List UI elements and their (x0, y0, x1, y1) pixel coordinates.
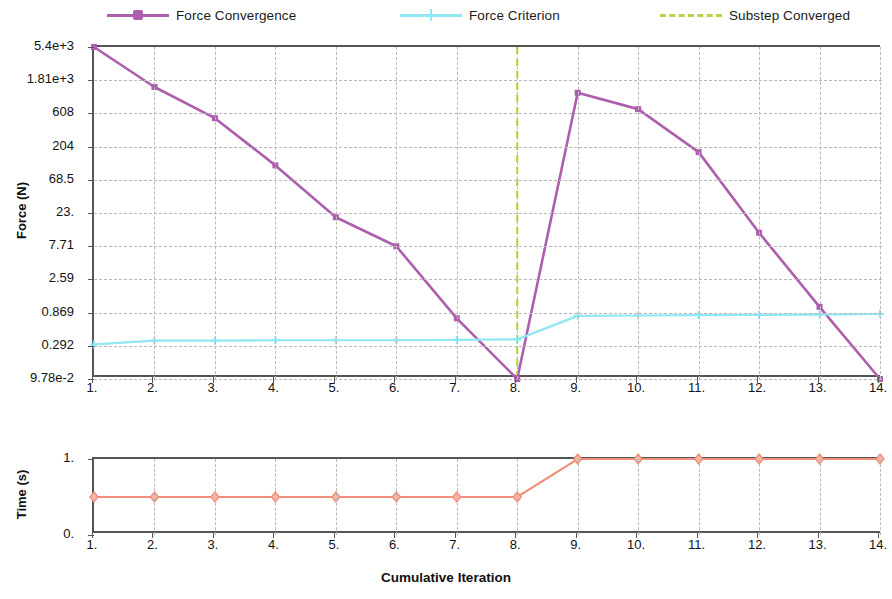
force-y-tick-label: 68.5 (49, 170, 74, 185)
time-data-point-marker (332, 492, 340, 502)
force-data-point-marker (876, 310, 884, 318)
force-y-tick-mark (88, 346, 94, 347)
time-x-tick-label: 6. (389, 537, 400, 552)
time-data-point-marker (392, 492, 400, 502)
time-x-tick-label: 14. (869, 537, 887, 552)
time-data-point-marker (271, 492, 279, 502)
force-data-point-marker (393, 243, 399, 249)
force-y-tick-label: 23. (56, 203, 74, 218)
time-data-point-marker (695, 454, 703, 464)
force-data-point-marker (755, 311, 763, 319)
force-data-point-marker (634, 311, 642, 319)
force-data-point-marker (212, 115, 218, 121)
time-series-line (94, 459, 880, 497)
time-data-point-marker (755, 454, 763, 464)
time-x-tick-labels: 1.2.3.4.5.6.7.8.9.10.11.12.13.14. (0, 537, 892, 559)
force-data-point-marker (817, 304, 823, 310)
force-x-tick-label: 9. (570, 380, 581, 395)
force-series-layer (94, 47, 882, 379)
force-data-point-marker (333, 214, 339, 220)
legend-item-substep-converged[interactable]: Substep Converged (660, 2, 850, 28)
time-data-point-marker (453, 492, 461, 502)
force-data-point-marker (272, 162, 278, 168)
legend-label-force-convergence: Force Convergence (176, 8, 296, 23)
time-x-tick-label: 3. (208, 537, 219, 552)
force-data-point-marker (211, 337, 219, 345)
legend-label-substep-converged: Substep Converged (729, 8, 850, 23)
force-x-tick-label: 8. (510, 380, 521, 395)
force-data-point-marker (151, 84, 157, 90)
time-data-point-marker (90, 492, 98, 502)
force-y-tick-label: 7.71 (49, 237, 74, 252)
force-data-point-marker (635, 106, 641, 112)
force-convergence-plot-area (92, 45, 880, 377)
time-data-point-marker (574, 454, 582, 464)
time-series-layer (94, 459, 882, 535)
legend-swatch-force-criterion-icon (400, 8, 462, 22)
force-data-point-marker (513, 335, 521, 343)
force-data-point-marker (574, 312, 582, 320)
time-x-tick-label: 5. (328, 537, 339, 552)
force-series-line-force-convergence (94, 47, 880, 379)
chart-legend: Force Convergence Force Criterion Subste… (0, 0, 892, 30)
force-data-point-marker (756, 230, 762, 236)
force-y-tick-label: 5.4e+3 (34, 38, 74, 53)
force-data-point-marker (453, 336, 461, 344)
time-y-tick-mark (88, 459, 94, 460)
cumulative-iteration-axis-title: Cumulative Iteration (0, 570, 892, 585)
force-x-tick-label: 4. (268, 380, 279, 395)
force-x-tick-label: 2. (147, 380, 158, 395)
force-data-point-marker (332, 336, 340, 344)
force-y-tick-mark (88, 213, 94, 214)
force-x-tick-label: 12. (748, 380, 766, 395)
time-x-tick-label: 4. (268, 537, 279, 552)
force-x-tick-label: 10. (627, 380, 645, 395)
legend-swatch-substep-converged-icon (660, 8, 722, 22)
time-y-tick-label: 1. (63, 450, 74, 465)
force-y-tick-mark (88, 279, 94, 280)
time-data-point-marker (150, 492, 158, 502)
force-data-point-marker (695, 311, 703, 319)
time-data-point-marker (513, 492, 521, 502)
time-data-point-marker (634, 454, 642, 464)
force-y-tick-mark (88, 147, 94, 148)
time-data-point-marker (876, 454, 884, 464)
force-y-tick-mark (88, 313, 94, 314)
force-y-tick-label: 0.869 (41, 303, 74, 318)
time-x-tick-label: 9. (570, 537, 581, 552)
time-x-tick-label: 2. (147, 537, 158, 552)
time-x-tick-label: 8. (510, 537, 521, 552)
force-y-tick-mark (88, 180, 94, 181)
force-x-tick-label: 1. (87, 380, 98, 395)
force-y-tick-label: 1.81e+3 (27, 71, 74, 86)
force-x-tick-label: 5. (328, 380, 339, 395)
force-x-tick-label: 7. (449, 380, 460, 395)
legend-item-force-criterion[interactable]: Force Criterion (400, 2, 560, 28)
time-data-point-marker (816, 454, 824, 464)
force-y-tick-mark (88, 47, 94, 48)
legend-item-force-convergence[interactable]: Force Convergence (107, 2, 296, 28)
force-y-tick-mark (88, 246, 94, 247)
force-x-tick-label: 6. (389, 380, 400, 395)
force-data-point-marker (271, 336, 279, 344)
legend-label-force-criterion: Force Criterion (469, 8, 560, 23)
time-x-tick-label: 11. (688, 537, 705, 552)
force-y-tick-label: 0.292 (41, 336, 74, 351)
force-x-tick-label: 11. (688, 380, 705, 395)
legend-swatch-force-convergence-icon (107, 8, 169, 22)
time-x-tick-label: 1. (87, 537, 98, 552)
convergence-plot-window: Force Convergence Force Criterion Subste… (0, 0, 892, 599)
force-data-point-marker (392, 336, 400, 344)
time-data-point-marker (211, 492, 219, 502)
time-x-tick-label: 10. (627, 537, 645, 552)
force-y-tick-label: 204 (52, 137, 74, 152)
force-x-tick-label: 13. (808, 380, 826, 395)
force-y-tick-mark (88, 80, 94, 81)
force-data-point-marker (90, 340, 98, 348)
time-x-tick-label: 12. (748, 537, 766, 552)
force-data-point-marker (575, 90, 581, 96)
time-x-tick-label: 7. (449, 537, 460, 552)
force-data-point-marker (150, 337, 158, 345)
force-data-point-marker (454, 315, 460, 321)
force-y-tick-mark (88, 113, 94, 114)
